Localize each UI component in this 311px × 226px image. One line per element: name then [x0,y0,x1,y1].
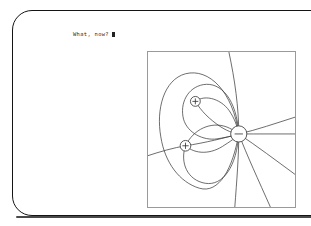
charge-right-negative[interactable] [231,126,247,142]
fieldline-radial-left-exit [148,146,185,156]
field-line-diagram [148,52,295,207]
prompt-line: What, now? [73,31,115,38]
fieldline-outer-loop-left [159,73,238,189]
field-line-diagram-panel[interactable] [147,51,296,208]
charge-left-positive[interactable] [180,140,191,151]
fieldline-radial-right-upper [239,117,295,134]
window-drop-shadow [16,216,311,218]
prompt-text: What, now? [73,31,109,38]
application-window[interactable]: What, now? [12,10,311,216]
charge-upper-positive[interactable] [190,96,200,106]
text-cursor [112,32,115,37]
screen: What, now? [0,0,311,226]
